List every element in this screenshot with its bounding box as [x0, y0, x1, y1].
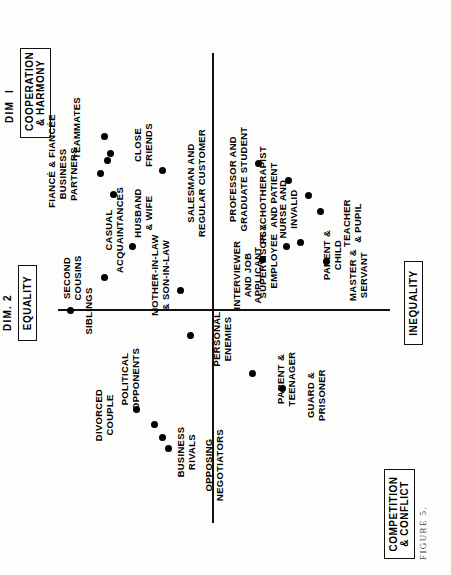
figure-caption: FIGURE 5. — [418, 506, 428, 560]
pole-box-equality: EQUALITY — [18, 265, 37, 341]
data-point — [165, 446, 172, 453]
pole-box-inequality: INEQUALITY — [404, 261, 423, 345]
data-point-label: POLITICAL OPPONENTS — [120, 348, 141, 410]
data-point-label: TEAMMATES — [72, 97, 83, 159]
data-point-label: SECOND COUSINS — [62, 255, 83, 300]
data-point-label: MOTHER-IN-LAW & SON-IN-LAW — [150, 234, 171, 316]
data-point — [159, 435, 166, 442]
data-point — [107, 151, 114, 158]
data-point-label: BUSINESS RIVALS — [176, 427, 197, 478]
data-point-label: SIBLINGS — [84, 287, 95, 334]
data-point-label: SALESMAN AND REGULAR CUSTOMER — [186, 129, 207, 237]
data-point — [101, 275, 108, 282]
data-point — [249, 371, 256, 378]
data-point-label: PERSONAL ENEMIES — [212, 312, 233, 367]
data-point-label: CASUAL ACQUAINTANCES — [104, 187, 125, 273]
data-point-label: PROFESSOR AND GRADUATE STUDENT — [228, 127, 249, 232]
data-point-label: GUARD & PRISONER — [306, 369, 327, 421]
data-point-label: FIANCÉ & FIANCÉE — [47, 114, 58, 208]
data-point — [129, 244, 136, 251]
plot-stage: COOPERATION & HARMONY COMPETITION & CONF… — [0, 0, 451, 575]
data-point-label: DIVORCED COUPLE — [94, 389, 115, 441]
data-point-label: PSYCHOTHERAPIST AND PATIENT — [258, 146, 279, 244]
data-point — [283, 244, 290, 251]
data-point-label: PARENT & TEENAGER — [276, 352, 297, 407]
data-point-label: TEACHER & PUPIL — [342, 199, 363, 247]
data-point — [317, 209, 324, 216]
data-point — [97, 171, 104, 178]
dim1-axis-label: DIM I — [4, 89, 15, 123]
pole-box-competition-conflict: COMPETITION & CONFLICT — [384, 469, 415, 559]
dim2-axis-label: DIM. 2 — [2, 294, 13, 331]
data-point-label: HUSBAND & WIFE — [133, 188, 154, 237]
data-point-label: CLOSE FRIENDS — [133, 123, 154, 167]
data-point-label: PARENT & CHILD — [322, 230, 343, 280]
data-point — [101, 134, 108, 141]
data-point — [159, 168, 166, 175]
data-point-label: OPPOSING NEGOTIATORS — [204, 429, 225, 501]
data-point — [67, 308, 74, 315]
data-point — [305, 193, 312, 200]
data-point — [187, 333, 194, 340]
data-point-label: NURSE AND INVALID — [278, 180, 299, 239]
data-point — [151, 422, 158, 429]
data-point — [177, 288, 184, 295]
data-point-label: MASTER & SERVANT — [348, 249, 369, 301]
data-point — [104, 158, 111, 165]
figure-5-perceptual-map: COOPERATION & HARMONY COMPETITION & CONF… — [0, 0, 451, 575]
data-point — [297, 240, 304, 247]
